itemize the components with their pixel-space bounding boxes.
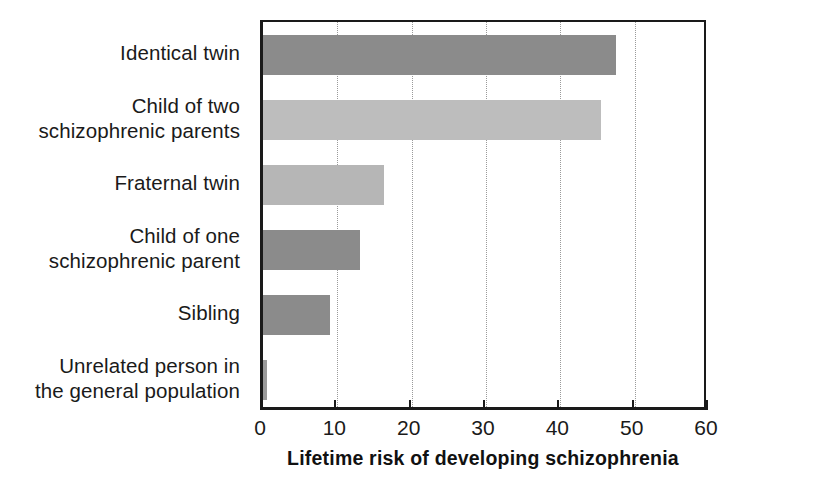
- bar: [263, 295, 330, 335]
- tick-mark: [334, 400, 336, 410]
- x-tick-label: 10: [323, 416, 346, 440]
- x-tick-label: 30: [471, 416, 494, 440]
- x-tick-label: 60: [694, 416, 717, 440]
- tick-mark: [483, 400, 485, 410]
- category-label-column: Identical twinChild of two schizophrenic…: [0, 20, 250, 410]
- tick-mark: [260, 400, 262, 410]
- x-axis-title: Lifetime risk of developing schizophreni…: [260, 447, 706, 470]
- tick-mark: [632, 400, 634, 410]
- x-tick-label: 0: [254, 416, 266, 440]
- category-label: Fraternal twin: [114, 170, 240, 195]
- category-label: Child of two schizophrenic parents: [38, 93, 240, 143]
- bar: [263, 100, 601, 140]
- x-axis-ticks: 0102030405060: [260, 410, 706, 450]
- plot-area: [260, 20, 706, 410]
- tick-mark: [409, 400, 411, 410]
- x-tick-label: 50: [620, 416, 643, 440]
- x-tick-label: 40: [546, 416, 569, 440]
- bar: [263, 165, 384, 205]
- category-label: Unrelated person in the general populati…: [35, 353, 240, 403]
- bar-chart-figure: Identical twinChild of two schizophrenic…: [0, 0, 838, 494]
- category-label: Child of one schizophrenic parent: [49, 223, 240, 273]
- tick-mark: [557, 400, 559, 410]
- bars-layer: [263, 22, 704, 407]
- category-label: Sibling: [178, 300, 240, 325]
- bar: [263, 360, 267, 400]
- bar: [263, 35, 616, 75]
- category-label: Identical twin: [120, 40, 240, 65]
- tick-mark: [706, 400, 708, 410]
- x-tick-label: 20: [397, 416, 420, 440]
- bar: [263, 230, 360, 270]
